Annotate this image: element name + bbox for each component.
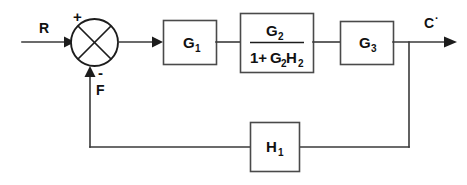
block-h1-subscript: 1 [278,147,284,158]
block-g1-label: G [183,34,195,51]
transfer-numerator-subscript: 2 [278,31,284,42]
arrow-output-c [444,37,457,48]
minus-sign-label: - [98,64,103,81]
plus-sign-label: + [73,8,82,25]
block-g1-subscript: 1 [195,43,201,54]
block-g3: G 3 [341,22,394,65]
block-diagram-canvas: G 1 G 2 1+ G 2 H 2 G [0,0,467,185]
transfer-denominator-h-subscript: 2 [298,58,304,69]
output-wire-c [393,37,457,48]
transfer-denominator-g: G [270,49,282,66]
arrow-into-g1 [152,37,163,48]
block-h1-label: H [266,138,277,155]
input-wire-r [22,37,75,48]
transfer-denominator-one: 1+ [250,49,267,66]
wire-sum-to-g1 [118,37,163,48]
summing-junction [71,19,118,66]
control-system-diagram: G 1 G 2 1+ G 2 H 2 G [0,0,467,185]
transfer-denominator-h: H [286,49,297,66]
block-transfer-function: G 2 1+ G 2 H 2 [241,14,314,73]
output-prime-mark: · [435,12,439,24]
input-signal-label-r: R [39,20,49,36]
block-g3-label: G [359,34,371,51]
arrow-into-summing-junction-feedback [85,66,96,77]
block-g1: G 1 [164,21,217,65]
transfer-numerator-label: G [266,22,278,39]
output-signal-label-c: C [424,15,434,31]
block-g3-subscript: 3 [371,43,377,54]
block-h1: H 1 [251,123,300,172]
feedback-signal-label-f: F [96,82,105,98]
